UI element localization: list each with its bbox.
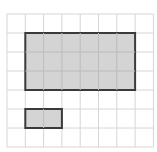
grid-diagram (0, 0, 157, 152)
